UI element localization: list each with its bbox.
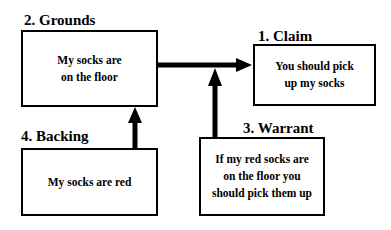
grounds-box: My socks are on the floor	[21, 30, 158, 107]
backing-text: My socks are red	[48, 174, 132, 191]
backing-label: 4. Backing	[21, 128, 89, 144]
claim-text: You should pick up my socks	[275, 58, 354, 92]
grounds-label: 2. Grounds	[24, 12, 95, 28]
warrant-arrow	[208, 68, 222, 137]
backing-arrow	[128, 107, 142, 148]
claim-label: 1. Claim	[258, 28, 312, 44]
warrant-box: If my red socks are on the floor you sho…	[199, 137, 325, 216]
grounds-to-claim-arrow	[157, 58, 252, 72]
grounds-text: My socks are on the floor	[57, 52, 121, 86]
backing-box: My socks are red	[21, 148, 158, 216]
claim-box: You should pick up my socks	[253, 44, 376, 106]
warrant-label: 3. Warrant	[243, 120, 314, 136]
warrant-text: If my red socks are on the floor you sho…	[212, 151, 312, 202]
